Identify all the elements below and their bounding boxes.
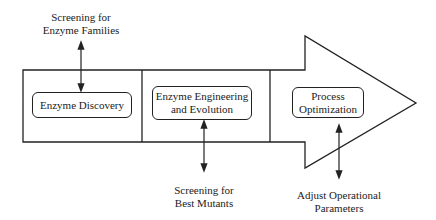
annotation-adjust-parameters: Adjust Operational Parameters — [294, 189, 384, 215]
annotation-screening-mutants: Screening for Best Mutants — [164, 184, 244, 210]
stage-process-optimization: Process Optimization — [292, 87, 364, 118]
stage-enzyme-engineering: Enzyme Engineering and Evolution — [152, 86, 252, 120]
stage-enzyme-discovery: Enzyme Discovery — [32, 92, 132, 118]
workflow-diagram: Screening for Enzyme Families Enzyme Dis… — [0, 0, 436, 220]
annotation-screening-families: Screening for Enzyme Families — [36, 11, 126, 37]
